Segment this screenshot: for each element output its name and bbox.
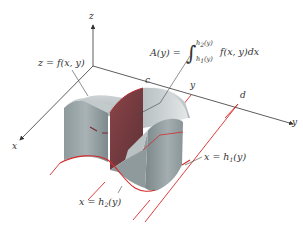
lower-limit-arg: (y) xyxy=(204,55,213,63)
area-formula-lhs: A(y) = xyxy=(150,48,181,58)
z-axis-label: z xyxy=(89,12,94,21)
line-c-left xyxy=(50,163,60,175)
solid-left-face xyxy=(64,101,108,162)
h2-arg: (y) xyxy=(108,196,121,207)
y-axis-label: y xyxy=(292,118,297,127)
h2-lhs: x = h xyxy=(79,196,104,207)
x-axis-label: x xyxy=(12,142,17,151)
volume-diagram xyxy=(0,0,303,225)
boundary-label-h2: x = h2(y) xyxy=(79,197,121,208)
y-mark-c: c xyxy=(145,76,150,85)
upper-limit-arg: (y) xyxy=(204,39,213,47)
integrand: f(x, y)dx xyxy=(220,47,259,57)
boundary-label-h1: x = h1(y) xyxy=(204,152,246,163)
solid-right-face xyxy=(145,119,183,191)
h1-lhs: x = h xyxy=(204,151,229,162)
integral-sign-icon: ∫ xyxy=(186,41,196,65)
h1-arg: (y) xyxy=(233,151,246,162)
upper-limit: h2(y) xyxy=(196,40,213,48)
line-d-low xyxy=(133,200,150,220)
y-mark-d: d xyxy=(240,91,246,100)
surface-label: z = f(x, y) xyxy=(38,58,85,68)
diagram-canvas: z x y z = f(x, y) A(y) = ∫ h2(y) h1(y) f… xyxy=(0,0,303,225)
lower-limit: h1(y) xyxy=(196,56,213,64)
leader-h2 xyxy=(118,186,122,193)
y-mark-y: y xyxy=(190,81,195,90)
solid xyxy=(60,88,190,192)
